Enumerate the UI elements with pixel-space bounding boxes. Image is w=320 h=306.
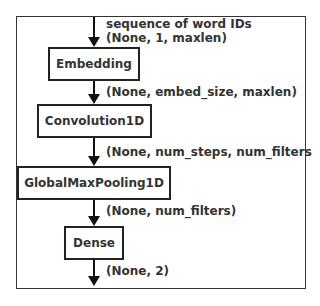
arrowhead-icon xyxy=(88,94,100,104)
node-globalmaxpooling1d: GlobalMaxPooling1D xyxy=(17,166,171,200)
node-embedding: Embedding xyxy=(48,47,140,81)
edge-pool-dense-label: (None, num_filters) xyxy=(106,204,236,218)
arrowhead-icon xyxy=(88,156,100,166)
edge-input-line xyxy=(93,17,95,39)
node-convolution1d: Convolution1D xyxy=(37,104,152,138)
edge-dense-output-label: (None, 2) xyxy=(106,264,169,278)
edge-input-label-2: (None, 1, maxlen) xyxy=(106,31,227,45)
node-dense: Dense xyxy=(64,226,124,260)
arrowhead-icon xyxy=(88,276,100,286)
edge-conv-pool-line xyxy=(93,138,95,158)
edge-embedding-conv-label: (None, embed_size, maxlen) xyxy=(106,85,297,99)
arrowhead-icon xyxy=(88,37,100,47)
arrowhead-icon xyxy=(88,216,100,226)
edge-input-label-1: sequence of word IDs xyxy=(106,17,252,31)
edge-conv-pool-label: (None, num_steps, num_filters xyxy=(106,145,312,159)
